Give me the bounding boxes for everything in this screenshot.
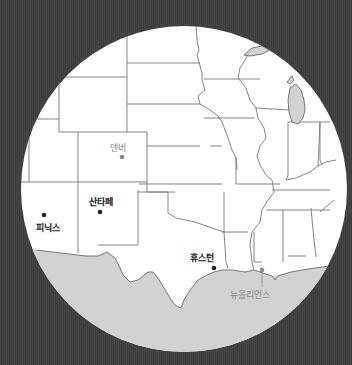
map-disc [0, 0, 352, 365]
city-label-santa-fe: 산타페 [89, 196, 113, 207]
city-marker-houston [212, 266, 217, 271]
city-marker-phoenix [42, 213, 47, 218]
city-marker-denver [120, 155, 125, 160]
city-label-new-orleans: 뉴올리언스 [230, 289, 270, 300]
city-marker-santa-fe [98, 210, 103, 215]
city-label-houston: 휴스턴 [190, 252, 214, 263]
city-label-denver: 덴버 [110, 143, 126, 153]
city-label-phoenix: 피닉스 [36, 222, 61, 233]
city-marker-new-orleans [260, 268, 265, 273]
map: 덴버 산타페 피닉스 휴스턴 뉴올리언스 [0, 0, 352, 365]
